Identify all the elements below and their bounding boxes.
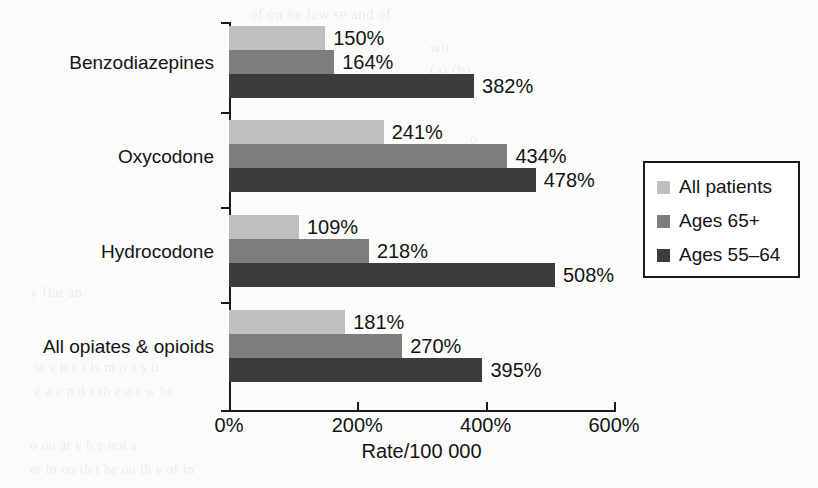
y-axis-tick — [221, 302, 230, 304]
legend-label: Ages 65+ — [679, 210, 760, 232]
x-axis-tick — [486, 402, 488, 412]
bar — [229, 50, 334, 74]
x-axis-tick — [614, 402, 616, 412]
bar-value-label: 150% — [333, 26, 384, 50]
x-axis-tick — [229, 402, 231, 412]
bar-value-label: 395% — [490, 358, 541, 382]
bar — [229, 120, 384, 144]
x-tick-label: 400% — [436, 414, 536, 437]
x-tick-label: 0% — [179, 414, 279, 437]
bar — [229, 168, 536, 192]
bar-value-label: 478% — [544, 168, 595, 192]
category-label: Hydrocodone — [0, 241, 214, 263]
x-tick-label: 200% — [307, 414, 407, 437]
bar — [229, 144, 507, 168]
y-axis-tick — [221, 22, 230, 24]
bar-value-label: 241% — [392, 120, 443, 144]
x-tick-label: 600% — [564, 414, 664, 437]
x-axis-line — [229, 410, 614, 412]
bar — [229, 334, 402, 358]
bar — [229, 74, 474, 98]
legend-swatch-icon — [657, 181, 670, 194]
legend-item[interactable]: Ages 65+ — [657, 209, 760, 233]
bar-value-label: 434% — [515, 144, 566, 168]
bar-value-label: 382% — [482, 74, 533, 98]
bar-value-label: 218% — [377, 239, 428, 263]
bar-value-label: 270% — [410, 334, 461, 358]
bar-value-label: 181% — [353, 310, 404, 334]
x-axis-tick — [357, 402, 359, 412]
bar — [229, 239, 369, 263]
x-axis-title: Rate/100 000 — [279, 440, 564, 463]
category-label: Benzodiazepines — [0, 52, 214, 74]
y-axis-tick — [221, 112, 230, 114]
legend-label: All patients — [679, 176, 772, 198]
legend-label: Ages 55–64 — [679, 244, 780, 266]
legend-item[interactable]: All patients — [657, 175, 772, 199]
legend-swatch-icon — [657, 249, 670, 262]
bar — [229, 310, 345, 334]
legend-item[interactable]: Ages 55–64 — [657, 243, 780, 267]
category-label: Oxycodone — [0, 146, 214, 168]
legend-swatch-icon — [657, 215, 670, 228]
bar-value-label: 164% — [342, 50, 393, 74]
chart-page: of on he law se and ofwit(a) (b)oy flat … — [0, 0, 818, 488]
y-axis-tick — [221, 207, 230, 209]
bar — [229, 26, 325, 50]
bar — [229, 263, 555, 287]
bar-value-label: 109% — [307, 215, 358, 239]
category-label: All opiates & opioids — [0, 336, 214, 358]
bar — [229, 358, 482, 382]
bar — [229, 215, 299, 239]
chart-legend: All patientsAges 65+Ages 55–64 — [643, 161, 800, 278]
bar-value-label: 508% — [563, 263, 614, 287]
